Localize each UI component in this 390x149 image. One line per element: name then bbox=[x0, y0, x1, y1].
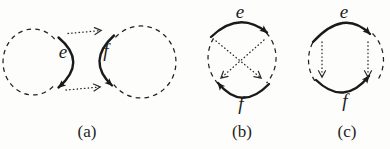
figure-b-dashed-circle-right bbox=[267, 33, 277, 83]
figure-a-caption: (a) bbox=[78, 122, 97, 141]
figure-a-edge-f-label: f bbox=[103, 40, 111, 61]
figure-c-edge-e-label: e bbox=[340, 1, 348, 22]
figure-a-left-dashed-circle bbox=[3, 29, 55, 95]
figure-c-caption: (c) bbox=[338, 122, 357, 141]
figure-c-edge-e-arrow bbox=[313, 23, 370, 42]
figure-b-edge-e-arrow bbox=[211, 22, 267, 37]
figure-b-diagonal-identification-arrow-lr bbox=[216, 41, 261, 78]
figure-a-bottom-identification-arrow bbox=[66, 87, 100, 90]
figure-b-diagonal-identification-arrow-rl bbox=[221, 40, 264, 78]
figure-c: e f (c) bbox=[308, 1, 383, 141]
figure-b-edge-e-label: e bbox=[236, 1, 244, 22]
figure-a: e f (a) bbox=[3, 26, 176, 141]
figure-a-edge-e-label: e bbox=[59, 41, 67, 62]
figure-b-dashed-circle-left bbox=[208, 38, 218, 84]
figure-c-dashed-circle-right bbox=[373, 34, 384, 81]
figure-a-right-dashed-circle bbox=[114, 26, 176, 98]
figure-b-edge-f-label: f bbox=[238, 93, 246, 114]
figure-a-top-identification-arrow bbox=[68, 31, 101, 34]
scanned-diagram-page: e f (a) e f (b) e f (c) bbox=[0, 0, 390, 149]
figure-b-caption: (b) bbox=[232, 122, 252, 141]
figure-c-dashed-circle-left bbox=[308, 42, 314, 81]
figure-b: e f (b) bbox=[208, 1, 276, 141]
graph-identification-diagram: e f (a) e f (b) e f (c) bbox=[0, 0, 390, 149]
figure-c-edge-f-label: f bbox=[342, 90, 350, 111]
